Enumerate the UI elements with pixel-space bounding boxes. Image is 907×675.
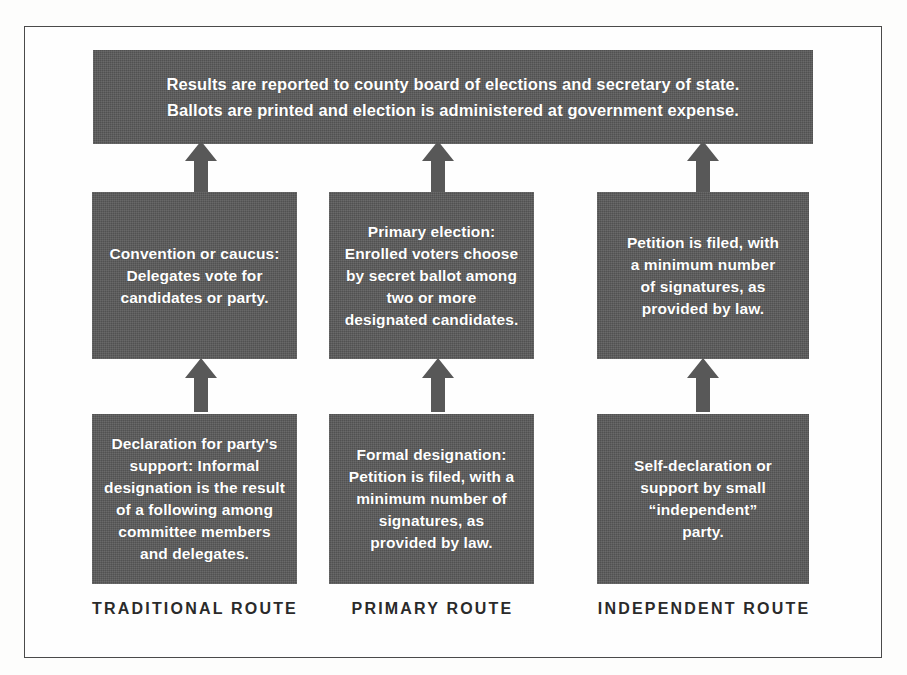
flow-box-traditional-middle: Convention or caucus: Delegates vote for… (92, 192, 297, 359)
flow-box-primary-middle-text: Primary election: Enrolled voters choose… (345, 221, 519, 331)
up-arrow-icon-independent-bottom (686, 358, 720, 412)
flow-box-primary-bottom: Formal designation: Petition is filed, w… (329, 414, 534, 584)
flow-box-results-banner-text: Results are reported to county board of … (166, 71, 739, 123)
flow-box-results-banner: Results are reported to county board of … (93, 50, 813, 144)
up-arrow-icon-traditional-top (184, 141, 218, 195)
up-arrow-icon-traditional-bottom (184, 358, 218, 412)
scanned-page: Results are reported to county board of … (0, 0, 907, 675)
flow-box-primary-bottom-text: Formal designation: Petition is filed, w… (349, 444, 514, 554)
route-caption-primary: PRIMARY ROUTE (315, 600, 550, 618)
up-arrow-icon-independent-top (686, 141, 720, 195)
up-arrow-icon-primary-top (421, 141, 455, 195)
flow-box-independent-bottom: Self-declaration or support by small “in… (597, 414, 809, 584)
route-caption-traditional: TRADITIONAL ROUTE (65, 600, 325, 618)
flow-box-traditional-bottom-text: Declaration for party's support: Informa… (104, 433, 285, 565)
figure-frame: Results are reported to county board of … (24, 26, 882, 658)
flow-box-traditional-middle-text: Convention or caucus: Delegates vote for… (109, 243, 279, 309)
flow-box-primary-middle: Primary election: Enrolled voters choose… (329, 192, 534, 359)
flow-box-independent-middle-text: Petition is filed, with a minimum number… (627, 232, 779, 320)
route-caption-independent: INDEPENDENT ROUTE (565, 600, 843, 618)
flow-box-traditional-bottom: Declaration for party's support: Informa… (92, 414, 297, 584)
flow-box-independent-middle: Petition is filed, with a minimum number… (597, 192, 809, 359)
up-arrow-icon-primary-bottom (421, 358, 455, 412)
flow-box-independent-bottom-text: Self-declaration or support by small “in… (634, 455, 772, 543)
